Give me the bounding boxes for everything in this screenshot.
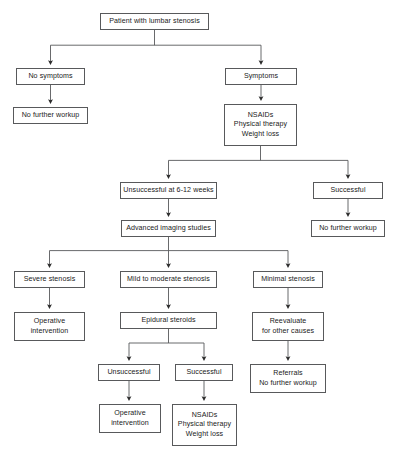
node-label: Advanced imaging studies [126,224,211,233]
node-unsuccessful-2: Unsuccessful [98,364,160,381]
node-successful-2: Successful [175,364,233,381]
node-label: Reevaluate [270,317,307,326]
node-operative-1: Operativeintervention [14,312,85,341]
node-mild-mod-stenosis: Mild to moderate stenosis [120,271,217,288]
node-no-symptoms: No symptoms [16,68,85,85]
node-label: NSAIDs [192,411,218,420]
node-no-further-workup-2: No further workup [311,220,385,237]
node-label: for other causes [262,327,314,336]
flowchart-canvas: Patient with lumbar stenosisNo symptomsN… [0,0,396,451]
node-epidural-steroids: Epidural steroids [120,312,217,329]
node-label: Unsuccessful [107,368,150,377]
node-severe-stenosis: Severe stenosis [14,271,85,288]
node-patient: Patient with lumbar stenosis [100,13,209,30]
node-symptoms: Symptoms [225,68,297,85]
node-label: No further workup [22,111,80,120]
node-label: Operative [114,409,145,418]
node-label: No symptoms [28,72,72,81]
node-label: No further workup [259,379,317,388]
node-label: Referrals [273,369,303,378]
node-label: Severe stenosis [24,275,76,284]
node-label: Symptoms [244,72,278,81]
node-reevaluate: Reevaluatefor other causes [252,312,324,341]
node-label: Physical therapy [234,120,287,129]
node-successful-1: Successful [313,182,383,199]
node-label: Patient with lumbar stenosis [109,17,200,26]
node-label: Epidural steroids [141,316,195,325]
node-conservative-2: NSAIDsPhysical therapyWeight loss [172,404,237,446]
node-label: Minimal stenosis [261,275,315,284]
node-label: Physical therapy [178,420,231,429]
node-label: Unsuccessful at 6-12 weeks [123,186,213,195]
node-label: Weight loss [186,430,223,439]
node-label: intervention [31,327,69,336]
node-label: Successful [186,368,221,377]
node-operative-2: Operativeintervention [99,404,161,433]
node-advanced-imaging: Advanced imaging studies [121,220,216,237]
node-label: No further workup [319,224,377,233]
node-referrals: ReferralsNo further workup [250,364,326,393]
node-label: NSAIDs [248,111,274,120]
node-label: Mild to moderate stenosis [127,275,210,284]
node-label: Weight loss [242,130,279,139]
node-label: Successful [330,186,365,195]
node-unsuccessful-6-12: Unsuccessful at 6-12 weeks [120,182,217,199]
node-minimal-stenosis: Minimal stenosis [253,271,323,288]
node-label: Operative [34,317,65,326]
node-no-further-workup-1: No further workup [13,107,88,124]
node-conservative-1: NSAIDsPhysical therapyWeight loss [224,104,297,146]
node-label: intervention [111,419,149,428]
